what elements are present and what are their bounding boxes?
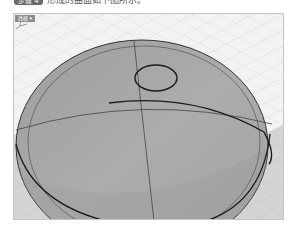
scene-canvas[interactable] [14, 14, 284, 220]
step-tag: 步骤 4 [14, 0, 43, 5]
perspective-viewport[interactable]: 透视 ▾ [13, 13, 284, 220]
caption-text: 形成的曲面如下图所示。 [47, 0, 146, 5]
instruction-caption: 步骤 4形成的曲面如下图所示。 [14, 0, 146, 5]
xyz-axis-icon [14, 14, 30, 30]
